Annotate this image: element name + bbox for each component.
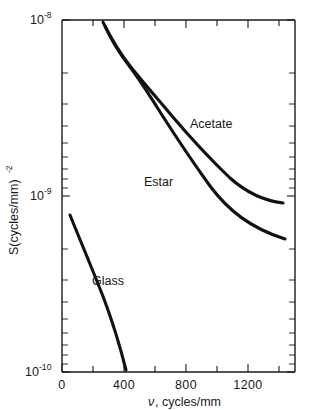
x-tick-label-0: 0 (58, 378, 65, 392)
y-axis-title-base: S(cycles/mm) (7, 179, 21, 255)
x-axis-title: ν , cycles/mm (148, 395, 221, 409)
curve-label-acetate: Acetate (190, 117, 232, 131)
plot-area: 10 -8 10 -9 10 -10 0 400 800 1200 ν , cy… (0, 0, 312, 410)
y-tick-label-mid-exponent: -9 (44, 186, 52, 196)
x-tick-label-400: 400 (113, 378, 135, 392)
y-tick-label-mid-base: 10 (30, 189, 44, 203)
curve-acetate (105, 26, 283, 203)
y-axis-ticks (62, 20, 70, 372)
curve-label-glass: Glass (92, 274, 124, 288)
y-tick-label-top: 10 -8 (30, 10, 52, 27)
figure-container: 10 -8 10 -9 10 -10 0 400 800 1200 ν , cy… (0, 0, 312, 410)
y-tick-label-bottom-base: 10 (25, 365, 39, 379)
y-axis-ticks-right (287, 20, 295, 372)
x-axis-ticks (62, 364, 279, 372)
y-tick-label-bottom-exponent: -10 (39, 362, 52, 372)
x-axis-title-rest: , cycles/mm (155, 395, 221, 409)
x-axis-title-symbol: ν (148, 395, 155, 409)
x-tick-label-1200: 1200 (233, 378, 262, 392)
y-axis-title-exponent: -2 (4, 165, 14, 173)
y-tick-label-bottom: 10 -10 (25, 362, 52, 379)
y-axis-title: S(cycles/mm) -2 (4, 165, 21, 255)
curve-label-estar: Estar (144, 175, 173, 189)
y-tick-label-top-exponent: -8 (44, 10, 52, 20)
x-axis-ticks-top (93, 20, 279, 28)
y-tick-label-mid: 10 -9 (30, 186, 52, 203)
y-tick-label-top-base: 10 (30, 13, 44, 27)
x-tick-label-800: 800 (175, 378, 197, 392)
curve-glass (70, 215, 126, 370)
